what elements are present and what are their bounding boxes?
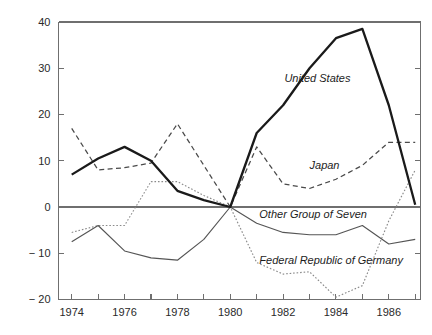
chart-container: − 20− 10010203040 1974197619781980198219… [0, 0, 432, 335]
y-tick-label: 30 [38, 62, 50, 74]
y-axis-tick-labels: − 20− 10010203040 [29, 16, 51, 306]
x-tick-label: 1980 [218, 306, 242, 318]
line-chart: − 20− 10010203040 1974197619781980198219… [0, 0, 432, 335]
series-label-japan: Japan [309, 159, 340, 171]
y-tick-label: 10 [38, 155, 50, 167]
x-tick-label: 1974 [59, 306, 83, 318]
series-annotation-labels: United StatesJapanOther Group of SevenFe… [259, 72, 404, 266]
y-tick-label: − 10 [29, 247, 51, 259]
x-tick-label: 1982 [271, 306, 295, 318]
series-label-united-states: United States [284, 72, 351, 84]
y-tick-label: 0 [44, 201, 50, 213]
y-tick-label: 20 [38, 108, 50, 120]
x-tick-label: 1984 [324, 306, 348, 318]
x-tick-label: 1976 [112, 306, 136, 318]
x-axis-tick-labels: 1974197619781980198219841986 [59, 306, 401, 318]
x-tick-label: 1978 [165, 306, 189, 318]
x-axis-ticks [72, 294, 416, 300]
series-line-japan [72, 124, 416, 207]
y-tick-label: − 20 [29, 293, 51, 305]
x-tick-label: 1986 [377, 306, 401, 318]
series-label-federal-republic-of-germany: Federal Republic of Germany [259, 254, 404, 266]
y-tick-label: 40 [38, 16, 50, 28]
series-line-united-states [72, 29, 416, 207]
series-label-other-group-of-seven: Other Group of Seven [259, 208, 367, 220]
series-line-federal-republic-of-germany [72, 170, 416, 297]
